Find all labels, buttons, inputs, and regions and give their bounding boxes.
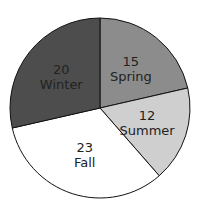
slice-label-winter: Winter — [40, 77, 84, 92]
slice-value-spring: 15 — [123, 54, 140, 69]
pie-slices — [10, 18, 190, 198]
slice-value-winter: 20 — [53, 62, 70, 77]
slice-value-fall: 23 — [76, 140, 93, 155]
pie-chart: 15Spring12Summer23Fall20Winter — [0, 0, 199, 213]
slice-label-fall: Fall — [74, 155, 95, 170]
slice-label-spring: Spring — [110, 69, 152, 84]
slice-value-summer: 12 — [139, 108, 156, 123]
slice-label-summer: Summer — [119, 123, 175, 138]
